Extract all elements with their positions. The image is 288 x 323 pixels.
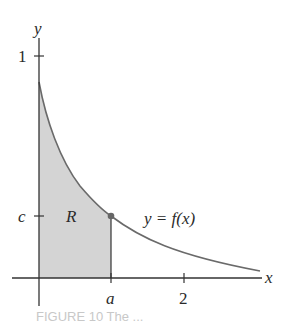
figure-caption: FIGURE 10 The ... (36, 309, 143, 323)
x-tick-label-2: 2 (179, 289, 188, 308)
point-a-c (108, 213, 115, 220)
y-tick-label-c: c (18, 207, 26, 226)
y-tick-label-1: 1 (18, 47, 27, 66)
y-axis-label: y (32, 19, 42, 38)
curve-label: y = f(x) (142, 209, 195, 228)
x-tick-label-a: a (106, 289, 115, 308)
region-label: R (65, 207, 77, 226)
x-axis-label: x (264, 268, 273, 287)
area-under-curve-diagram: y x 1 c a 2 R y = f(x) FIGURE 10 The ... (0, 0, 288, 323)
